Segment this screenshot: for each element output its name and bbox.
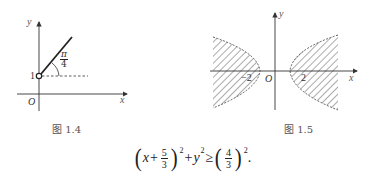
x-axis-label: x — [120, 94, 124, 105]
exponent: 2 — [244, 146, 248, 155]
y-axis-label: y — [279, 8, 283, 19]
point-label: 1 — [30, 70, 35, 81]
tick-label-2: 2 — [301, 72, 306, 83]
origin-label: O — [28, 96, 35, 107]
period: . — [248, 150, 252, 166]
tick-label-neg-2: −2 — [241, 72, 252, 83]
left-paren: ( — [135, 145, 142, 171]
denominator: 3 — [162, 159, 167, 170]
figure-1-5 — [210, 13, 357, 110]
geq-sign: ≥ — [206, 150, 214, 166]
numerator: 4 — [225, 147, 232, 159]
denominator: 3 — [226, 159, 231, 170]
inequality-formula: ( x + 5 3 ) 2 + y 2 ≥ ( 4 3 ) 2 . — [134, 143, 251, 173]
var-y: y — [193, 150, 199, 166]
numerator: 5 — [161, 147, 168, 159]
y-axis-label: y — [27, 16, 31, 27]
angle-denominator: 4 — [61, 60, 67, 69]
figure-1-5-caption: 图 1.5 — [284, 121, 313, 136]
figure-1-4-caption: 图 1.4 — [52, 121, 81, 136]
plus-sign: + — [184, 150, 192, 166]
exponent: 2 — [201, 146, 205, 155]
origin-label: O — [265, 73, 272, 84]
var-x: x — [143, 150, 149, 166]
fraction-5-3: 5 3 — [161, 147, 168, 170]
left-paren: ( — [215, 145, 222, 171]
angle-label: π 4 — [58, 48, 70, 69]
exponent: 2 — [179, 146, 183, 155]
open-point — [36, 73, 41, 78]
left-shaded-region — [213, 37, 260, 108]
fraction-4-3: 4 3 — [225, 147, 232, 170]
x-axis-label: x — [349, 72, 353, 83]
right-paren: ) — [171, 145, 178, 171]
right-paren: ) — [235, 145, 242, 171]
plus-sign: + — [150, 150, 158, 166]
right-shaded-region — [290, 35, 338, 110]
